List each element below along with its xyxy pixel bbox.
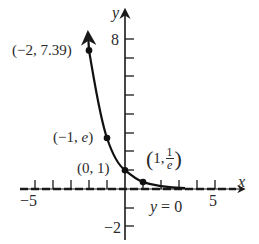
point-1 [140,179,147,186]
fraction-one-over-e: 1e [166,146,174,171]
x-tick-label-5: 5 [209,193,217,209]
fraction-denominator: e [167,159,172,171]
asymptote-label: y = 0 [150,199,182,215]
y-tick-label-neg2: −2 [104,220,121,236]
point-label-neg1-suffix: ) [88,129,93,145]
point-label-neg2: (−2, 7.39) [12,43,72,58]
exponential-decay-plot [0,0,259,244]
point-label-1: (1,1e) [146,146,182,171]
y-axis-label: y [112,5,119,21]
point-neg1 [104,135,111,142]
point-label-0: (0, 1) [77,161,110,176]
point-label-1-close: ) [175,146,182,171]
point-0 [122,167,129,174]
point-neg2 [86,47,93,54]
x-tick-label-neg5: −5 [20,193,37,209]
asymptote-label-eq: = 0 [157,198,182,215]
x-axis-label: x [238,174,245,190]
point-label-neg1-prefix: (−1, [53,129,81,145]
point-label-1-x: 1, [153,150,164,166]
point-label-neg1: (−1, e) [53,130,93,145]
y-tick-label-8: 8 [111,32,119,48]
y-ticks [125,39,134,226]
